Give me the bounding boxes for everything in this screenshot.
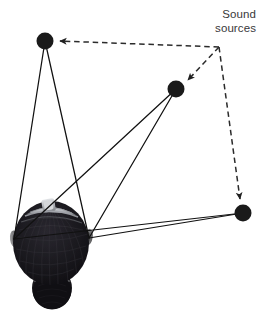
head-outline (13, 201, 89, 285)
sound-sources-label: Sound sources (215, 8, 256, 35)
dash-to-source-top-left (60, 41, 219, 47)
figure-root: Sound sources (0, 0, 264, 313)
source-node-right[interactable] (235, 205, 252, 222)
sound-sources-label-line1: Sound (215, 8, 256, 22)
source-node-middle[interactable] (168, 81, 185, 98)
dash-to-source-middle (188, 47, 219, 80)
dashed-annotation-group (60, 41, 240, 199)
ray-middle-to-right-ear (89, 89, 176, 238)
dash-to-source-right (219, 47, 240, 199)
source-node-group (37, 33, 252, 222)
source-node-top-left[interactable] (37, 33, 54, 50)
sound-source-diagram (0, 0, 264, 313)
ray-middle-to-left-ear (14, 89, 176, 239)
ray-right-to-right-ear (89, 213, 243, 238)
listener-head (9, 198, 94, 310)
sound-sources-label-line2: sources (215, 22, 256, 36)
